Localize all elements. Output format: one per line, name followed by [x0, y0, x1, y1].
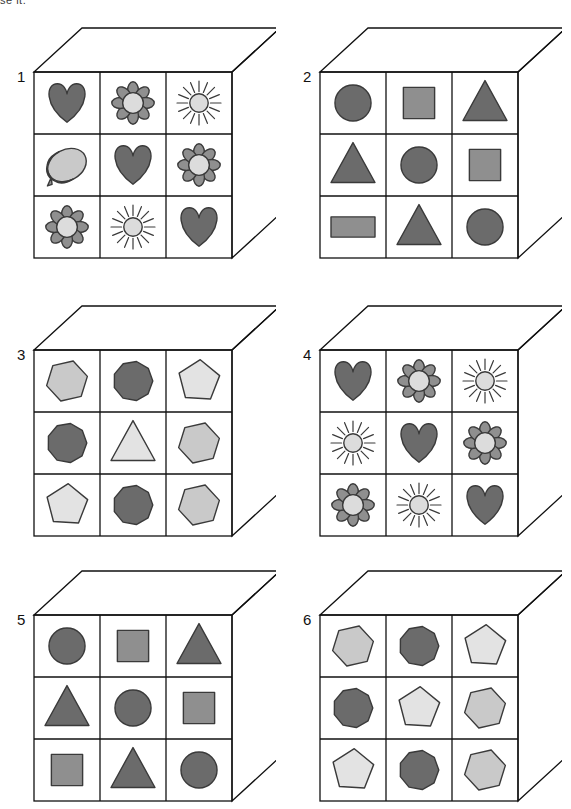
cube-5-cell-3[interactable] [177, 624, 221, 664]
cube-6: 6 [300, 557, 562, 809]
cube-4-cell-8[interactable] [397, 483, 441, 527]
shape-heart [181, 208, 217, 246]
cube-2-cell-6[interactable] [469, 149, 500, 180]
cube-1-cell-1[interactable] [49, 84, 85, 122]
shape-hexagon [179, 485, 220, 525]
cube-6-cell-7[interactable] [333, 749, 374, 788]
cube-6-cell-1[interactable] [333, 626, 374, 666]
shape-triangle [111, 748, 155, 788]
cube-3-cell-3[interactable] [179, 360, 220, 399]
cube-5-cell-4[interactable] [45, 686, 89, 726]
cube-6-cell-2[interactable] [400, 627, 438, 666]
cube-6-cell-8[interactable] [400, 751, 438, 790]
cube-1-cell-8[interactable] [111, 205, 155, 249]
cube-6-cell-5[interactable] [399, 687, 440, 726]
cube-right-face [518, 28, 562, 258]
shape-flower [46, 206, 88, 248]
shape-flower [464, 422, 506, 464]
cube-6-cell-9[interactable] [465, 750, 506, 790]
cube-4-cell-2[interactable] [398, 360, 440, 402]
cube-3-cell-2[interactable] [114, 362, 152, 401]
cube-5-cell-7[interactable] [51, 754, 82, 785]
cube-4-cell-3[interactable] [463, 359, 507, 403]
shape-octagon [48, 424, 86, 463]
cube-3-cell-9[interactable] [179, 485, 220, 525]
cube-number-label: 3 [17, 346, 25, 363]
cube-2-cell-4[interactable] [331, 143, 375, 183]
cube-4-cell-6[interactable] [464, 422, 506, 464]
shape-heart [335, 362, 371, 400]
shape-flower [398, 360, 440, 402]
cube-4-cell-7[interactable] [332, 484, 374, 526]
cube-4-cell-4[interactable] [331, 421, 375, 465]
cube-1-cell-4[interactable] [36, 142, 92, 192]
cut-off-header-text: se it. [0, 0, 26, 6]
cube-2-cell-7[interactable] [331, 217, 375, 237]
cube-4-cell-1[interactable] [335, 362, 371, 400]
shape-circle [467, 209, 503, 245]
cube-3-cell-6[interactable] [179, 423, 220, 463]
cube-right-face [232, 306, 276, 536]
shape-circle [401, 147, 437, 183]
cube-number-label: 1 [17, 68, 25, 85]
shape-heart [467, 486, 503, 524]
cube-5-cell-1[interactable] [49, 628, 85, 664]
cube-3-cell-1[interactable] [47, 361, 88, 401]
cube-2-cell-9[interactable] [467, 209, 503, 245]
cube-4-cell-5[interactable] [401, 424, 437, 462]
cube-number-label: 2 [303, 68, 311, 85]
cube-1-cell-7[interactable] [46, 206, 88, 248]
cube-4: 4 [300, 292, 562, 554]
shape-triangle [177, 624, 221, 664]
shape-flower [112, 82, 154, 124]
shape-circle [335, 85, 371, 121]
cube-5: 5 [14, 557, 276, 809]
cube-2-cell-2[interactable] [403, 87, 434, 118]
cube-2-cell-5[interactable] [401, 147, 437, 183]
cube-6-cell-4[interactable] [334, 689, 372, 728]
shape-pentagon [399, 687, 440, 726]
cube-1-cell-6[interactable] [178, 144, 220, 186]
shape-square [469, 149, 500, 180]
shape-octagon [114, 486, 152, 525]
shape-circle [115, 690, 151, 726]
cube-1-cell-9[interactable] [181, 208, 217, 246]
shape-octagon [400, 751, 438, 790]
cube-right-face [232, 28, 276, 258]
cube-3-cell-4[interactable] [48, 424, 86, 463]
shape-pentagon [465, 625, 506, 664]
cube-2-cell-8[interactable] [397, 205, 441, 245]
cube-number-label: 6 [303, 611, 311, 628]
shape-sun [111, 205, 155, 249]
shape-sun [331, 421, 375, 465]
cube-6-cell-3[interactable] [465, 625, 506, 664]
cube-5-cell-9[interactable] [181, 752, 217, 788]
cube-1-cell-2[interactable] [112, 82, 154, 124]
cube-5-cell-2[interactable] [117, 630, 148, 661]
shape-circle [181, 752, 217, 788]
shape-heart [115, 146, 151, 184]
cube-3-cell-5[interactable] [111, 421, 155, 461]
cube-1-cell-5[interactable] [115, 146, 151, 184]
cube-3-cell-7[interactable] [47, 484, 88, 523]
cube-5-cell-6[interactable] [183, 692, 214, 723]
cube-3-cell-8[interactable] [114, 486, 152, 525]
cube-4-cell-9[interactable] [467, 486, 503, 524]
shape-octagon [334, 689, 372, 728]
shape-sun [397, 483, 441, 527]
cube-right-face [518, 306, 562, 536]
cube-right-face [518, 571, 562, 801]
shape-sun [463, 359, 507, 403]
cube-2-cell-3[interactable] [463, 81, 507, 121]
cube-1-cell-3[interactable] [177, 81, 221, 125]
shape-heart [401, 424, 437, 462]
shape-flower [178, 144, 220, 186]
cube-2-cell-1[interactable] [335, 85, 371, 121]
cube-right-face [232, 571, 276, 801]
cube-6-cell-6[interactable] [465, 688, 506, 728]
cube-5-cell-8[interactable] [111, 748, 155, 788]
shape-hexagon [179, 423, 220, 463]
cube-number-label: 5 [17, 611, 25, 628]
cube-number-label: 4 [303, 346, 311, 363]
cube-5-cell-5[interactable] [115, 690, 151, 726]
